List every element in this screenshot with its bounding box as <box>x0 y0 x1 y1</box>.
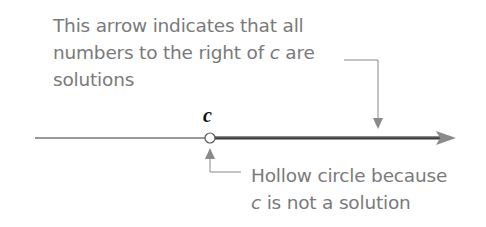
bottom-annotation-line2-text: is not a solution <box>261 192 411 213</box>
top-annotation: This arrow indicates that all numbers to… <box>53 12 315 93</box>
variable-c: c <box>251 192 261 213</box>
top-annotation-line2-text: numbers to the right of <box>53 42 270 63</box>
bottom-callout-line <box>210 157 241 172</box>
top-annotation-line2: numbers to the right of c are <box>53 39 315 66</box>
bottom-annotation: Hollow circle because c is not a solutio… <box>251 162 447 216</box>
point-label-c: c <box>203 104 212 127</box>
variable-c: c <box>270 42 280 63</box>
top-annotation-line1: This arrow indicates that all <box>53 12 315 39</box>
up-arrow-icon <box>205 148 215 159</box>
top-annotation-line3: solutions <box>53 66 315 93</box>
top-callout-line <box>344 60 378 120</box>
hollow-circle-icon <box>205 133 215 143</box>
bottom-annotation-line1: Hollow circle because <box>251 162 447 189</box>
down-arrow-icon <box>373 118 383 129</box>
top-annotation-line2-end: are <box>280 42 315 63</box>
bottom-annotation-line2: c is not a solution <box>251 189 447 216</box>
